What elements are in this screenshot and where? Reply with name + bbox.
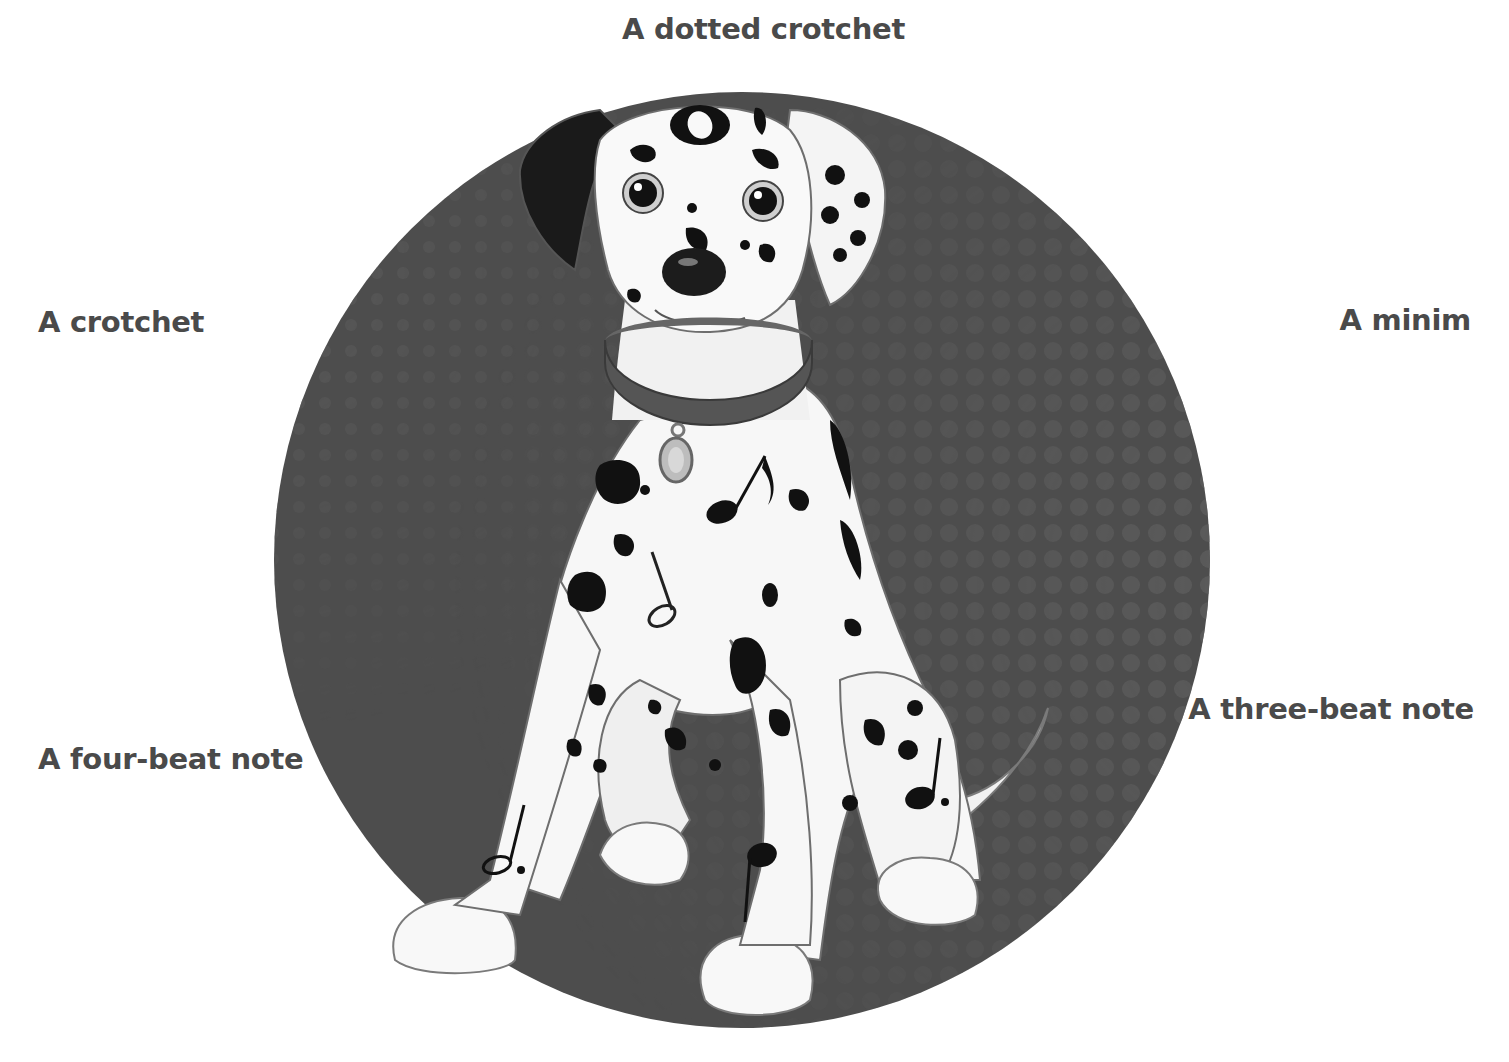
label-dotted-crotchet: A dotted crotchet xyxy=(622,12,905,46)
dalmatian-illustration xyxy=(0,0,1509,1062)
label-three-beat-note: A three-beat note xyxy=(1188,692,1474,726)
label-crotchet: A crotchet xyxy=(38,305,204,339)
label-minim: A minim xyxy=(1340,303,1471,337)
nose xyxy=(662,248,726,296)
label-four-beat-note: A four-beat note xyxy=(38,742,303,776)
